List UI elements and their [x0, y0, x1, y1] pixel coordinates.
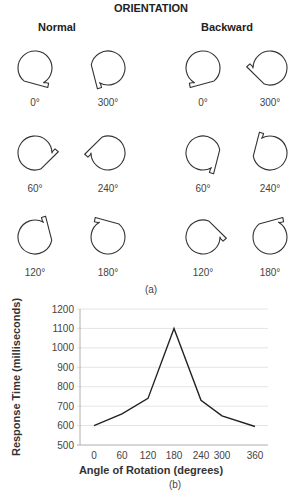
angle-label: 0° — [10, 97, 60, 108]
glyph-backward-180 — [253, 217, 287, 254]
angle-label: 60° — [178, 183, 228, 194]
glyph-normal-0 — [18, 51, 52, 88]
x-tick-label: 240 — [193, 450, 210, 461]
y-tick-label: 700 — [57, 401, 74, 412]
x-tick-label: 300 — [214, 450, 231, 461]
y-tick-label: 900 — [57, 362, 74, 373]
angle-label: 240° — [245, 183, 295, 194]
y-tick-label: 500 — [57, 440, 74, 451]
glyph-normal-60 — [12, 130, 61, 178]
panel-a-caption: (a) — [131, 284, 171, 295]
y-axis-title: Response Time (milliseconds) — [10, 298, 22, 456]
response-time-line — [94, 328, 255, 426]
x-tick-label: 120 — [140, 450, 157, 461]
angle-label: 240° — [83, 183, 133, 194]
y-tick-label: 1000 — [52, 342, 75, 353]
response-time-chart: 5006007008009001000110012000601201802403… — [0, 295, 302, 475]
x-tick-label: 360 — [247, 450, 264, 461]
angle-label: 180° — [83, 267, 133, 278]
glyph-normal-180 — [91, 217, 125, 254]
glyph-backward-300 — [245, 45, 294, 93]
y-tick-label: 600 — [57, 420, 74, 431]
glyph-normal-240 — [83, 128, 132, 176]
x-tick-label: 180 — [166, 450, 183, 461]
y-tick-label: 1100 — [52, 323, 74, 334]
angle-label: 120° — [10, 267, 60, 278]
glyph-backward-120 — [180, 212, 229, 260]
angle-label: 120° — [178, 267, 228, 278]
panel-b-caption: (b) — [155, 479, 195, 490]
angle-label: 300° — [245, 97, 295, 108]
x-axis-title: Angle of Rotation (degrees) — [0, 464, 302, 476]
angle-label: 0° — [178, 97, 228, 108]
y-tick-label: 1200 — [52, 304, 75, 315]
angle-label: 300° — [83, 97, 133, 108]
x-tick-label: 0 — [91, 450, 97, 461]
glyph-normal-300 — [83, 45, 132, 93]
angle-label: 60° — [10, 183, 60, 194]
y-tick-label: 800 — [57, 381, 74, 392]
glyph-normal-120 — [12, 213, 61, 261]
glyph-backward-0 — [186, 51, 220, 88]
glyph-backward-240 — [245, 129, 294, 177]
x-tick-label: 60 — [116, 450, 128, 461]
angle-label: 180° — [245, 267, 295, 278]
glyph-backward-60 — [180, 130, 229, 178]
orientation-glyphs — [0, 0, 302, 290]
